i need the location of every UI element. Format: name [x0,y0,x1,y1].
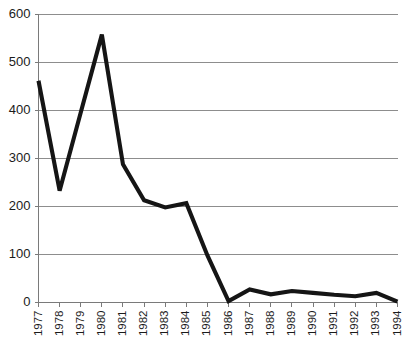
x-axis-tick-label: 1983 [158,311,170,337]
y-axis-tick-label: 0 [23,294,30,309]
x-axis-tick-label: 1984 [179,310,191,336]
y-axis-tick-label: 500 [9,54,31,69]
x-axis-tick-label: 1981 [116,311,128,337]
x-axis-tick-label: 1978 [53,311,65,337]
x-axis-tick-label: 1991 [327,311,339,337]
data-series-group [39,35,398,302]
gridlines-group [39,15,398,303]
y-axis-tick-label: 300 [9,150,31,165]
y-axis-labels: 0100200300400500600 [9,6,31,309]
x-axis-tick-label: 1977 [32,311,44,337]
x-axis-tick-label: 1994 [391,310,403,336]
y-axis-tick-label: 200 [9,198,31,213]
x-axis-tick-label: 1993 [369,311,381,337]
x-axis-tick-label: 1992 [348,311,360,337]
x-axis-labels: 1977197819791980198119821983198419851986… [32,310,403,336]
line-chart: 0100200300400500600 19771978197919801981… [0,0,409,347]
tickmarks-group [35,15,398,307]
data-line-series-1 [39,35,398,302]
x-axis-tick-label: 1979 [74,311,86,337]
y-axis-tick-label: 400 [9,102,31,117]
x-axis-tick-label: 1982 [137,311,149,337]
x-axis-tick-label: 1987 [243,311,255,337]
y-axis-tick-label: 100 [9,246,31,261]
chart-canvas: 0100200300400500600 19771978197919801981… [0,0,409,347]
x-axis-tick-label: 1986 [222,311,234,337]
x-axis-tick-label: 1980 [95,311,107,337]
x-axis-tick-label: 1990 [306,311,318,337]
x-axis-tick-label: 1989 [285,311,297,337]
x-axis-tick-label: 1985 [200,311,212,337]
x-axis-tick-label: 1988 [264,311,276,337]
y-axis-tick-label: 600 [9,6,31,21]
